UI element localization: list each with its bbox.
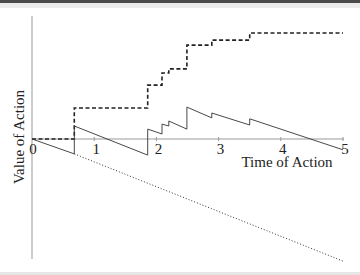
x-tick-label: 0 [29, 141, 37, 157]
x-tick-label: 3 [217, 141, 225, 157]
x-tick-label: 2 [155, 141, 163, 157]
y-axis-title: Value of Action [11, 89, 27, 184]
x-axis-title: Time of Action [241, 154, 333, 170]
x-tick-label: 5 [341, 141, 349, 157]
series-group [32, 33, 343, 261]
chart: 012345 Value of Action Time of Action [0, 0, 360, 275]
solid-sawtooth-line [32, 107, 343, 155]
dashed-step-line [32, 33, 343, 139]
x-tick-label: 1 [92, 141, 100, 157]
